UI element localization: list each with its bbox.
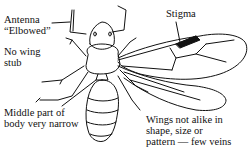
wings-label-line1: Wings not alike in xyxy=(146,114,231,125)
middle-leader-line xyxy=(62,80,96,106)
stigma-label: Stigma xyxy=(166,8,196,19)
stigma-label-text: Stigma xyxy=(166,8,196,19)
antenna-right xyxy=(112,6,126,32)
ant-diagram: Antenna “Elbowed” No wing stub Stigma Mi… xyxy=(0,0,252,166)
antenna-leader-line xyxy=(52,22,70,23)
wings-label-line3: pattern — few veins xyxy=(146,136,231,147)
antenna-left xyxy=(70,10,86,34)
legs-right xyxy=(118,38,148,110)
middle-body-label: Middle part of body very narrow xyxy=(4,107,79,129)
antenna-label-line1: Antenna xyxy=(4,14,51,25)
stigma-leader-line xyxy=(176,22,180,42)
eye-left xyxy=(94,32,97,36)
thorax xyxy=(86,44,120,74)
antenna-label: Antenna “Elbowed” xyxy=(4,14,51,36)
forewing xyxy=(118,34,247,79)
abdomen xyxy=(86,80,118,142)
wings-label: Wings not alike in shape, size or patter… xyxy=(146,114,231,147)
petiole xyxy=(96,74,108,80)
antenna-label-line2: “Elbowed” xyxy=(4,25,51,36)
no-wing-label-line1: No wing xyxy=(4,46,40,57)
wings-label-line2: shape, size or xyxy=(146,125,231,136)
middle-label-line1: Middle part of xyxy=(4,107,79,118)
middle-label-line2: body very narrow xyxy=(4,118,79,129)
eye-right xyxy=(109,32,112,36)
no-wing-label-line2: stub xyxy=(4,57,40,68)
no-wing-stub-label: No wing stub xyxy=(4,46,40,68)
hindwing xyxy=(118,66,226,111)
